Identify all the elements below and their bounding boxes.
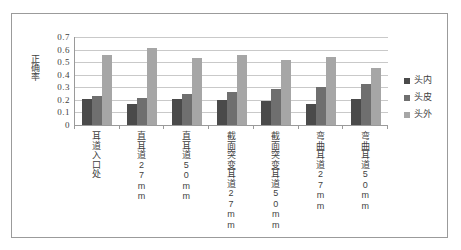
x-axis-category-label: 截面突变耳道27mm [225, 131, 236, 230]
x-axis-tick [119, 125, 120, 129]
x-axis-tick [253, 125, 254, 129]
bar-头外[interactable] [147, 48, 157, 125]
x-axis-category-label: 弯曲耳道50mm [359, 131, 370, 211]
x-axis-category: 弯曲耳道50mm [342, 131, 387, 211]
legend-label: 头皮 [414, 93, 432, 102]
bar-group [120, 37, 165, 125]
bar-头皮[interactable] [227, 92, 237, 125]
x-axis-category: 截面突变耳道50mm [253, 131, 298, 230]
x-axis-tick [163, 125, 164, 129]
y-axis-tick-label: 0.3 [40, 83, 70, 92]
x-axis-tick [74, 125, 75, 129]
chart-frame: 正确率 0.70.60.50.40.30.20.10 耳道入口处直耳道27mm直… [11, 13, 448, 238]
x-axis-category: 截面突变耳道27mm [208, 131, 253, 230]
legend-label: 头外 [414, 110, 432, 119]
x-axis-tick [298, 125, 299, 129]
bar-头皮[interactable] [271, 89, 281, 125]
plot-area [74, 37, 388, 126]
bar-头内[interactable] [172, 99, 182, 125]
x-axis-tick-marks [74, 125, 388, 129]
bar-头皮[interactable] [92, 96, 102, 125]
bar-头外[interactable] [326, 57, 336, 125]
y-axis-tick-label: 0.7 [40, 33, 70, 42]
bar-头外[interactable] [371, 68, 381, 125]
x-axis-tick [208, 125, 209, 129]
y-axis-tick-label: 0.1 [40, 108, 70, 117]
x-axis-category: 弯曲耳道27mm [298, 131, 343, 211]
legend-swatch-icon [404, 78, 410, 84]
bar-group [299, 37, 344, 125]
bar-头皮[interactable] [137, 98, 147, 125]
bar-group [75, 37, 120, 125]
y-axis-tick-label: 0.6 [40, 46, 70, 55]
x-axis-category-labels: 耳道入口处直耳道27mm直耳道50mm截面突变耳道27mm截面突变耳道50mm弯… [74, 131, 387, 226]
bar-头皮[interactable] [182, 94, 192, 125]
bar-group [209, 37, 254, 125]
bar-头内[interactable] [306, 104, 316, 125]
y-axis-title: 正确率 [26, 54, 40, 81]
legend-item-头内[interactable]: 头内 [404, 72, 454, 89]
x-axis-category-label: 直耳道27mm [136, 131, 147, 202]
y-axis-tick-label: 0.4 [40, 71, 70, 80]
legend-label: 头内 [414, 76, 432, 85]
bar-group [254, 37, 299, 125]
bar-头外[interactable] [281, 60, 291, 125]
bar-group [164, 37, 209, 125]
bar-头内[interactable] [82, 99, 92, 125]
legend-swatch-icon [404, 95, 410, 101]
y-axis-tick-label: 0 [40, 121, 70, 130]
bar-头外[interactable] [237, 55, 247, 125]
x-axis-tick [387, 125, 388, 129]
x-axis-category: 耳道入口处 [74, 131, 119, 179]
bar-头内[interactable] [351, 99, 361, 125]
x-axis-category: 直耳道27mm [119, 131, 164, 202]
x-axis-tick [342, 125, 343, 129]
x-axis-category-label: 直耳道50mm [180, 131, 191, 202]
bar-group [343, 37, 388, 125]
x-axis-category: 直耳道50mm [163, 131, 208, 202]
bar-头内[interactable] [261, 101, 271, 126]
legend-swatch-icon [404, 112, 410, 118]
legend-item-头外[interactable]: 头外 [404, 106, 454, 123]
y-axis-tick-labels: 0.70.60.50.40.30.20.10 [40, 33, 70, 125]
y-axis-tick-label: 0.5 [40, 58, 70, 67]
chart-legend: 头内头皮头外 [404, 72, 454, 123]
x-axis-category-label: 耳道入口处 [91, 131, 102, 179]
bar-头皮[interactable] [316, 87, 326, 125]
bar-头内[interactable] [217, 100, 227, 125]
x-axis-category-label: 弯曲耳道27mm [314, 131, 325, 211]
bar-头外[interactable] [102, 55, 112, 125]
bar-头内[interactable] [127, 104, 137, 125]
bars-layer [75, 37, 388, 125]
y-axis-tick-label: 0.2 [40, 96, 70, 105]
legend-item-头皮[interactable]: 头皮 [404, 89, 454, 106]
bar-头外[interactable] [192, 58, 202, 125]
x-axis-category-label: 截面突变耳道50mm [270, 131, 281, 230]
bar-头皮[interactable] [361, 84, 371, 125]
